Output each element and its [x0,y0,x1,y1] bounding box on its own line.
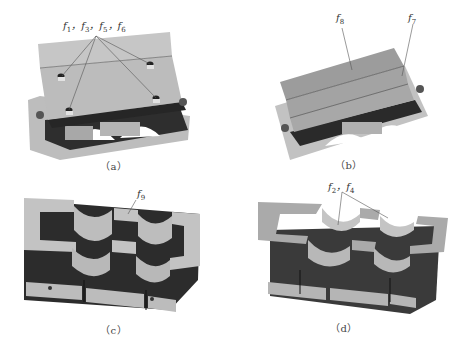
face-label-a: f1，f3，f5，f6 [63,17,126,34]
panel-d: f2，f4 （d） [230,170,461,338]
face-label-f7: f7 [408,12,416,26]
cad-render-d [230,170,461,338]
panel-a: f1，f3，f5，f6 （a） [0,0,230,170]
face-label-d: f2，f4 [328,178,354,195]
cad-render-b [230,0,461,170]
face-label-f8: f8 [336,12,344,26]
caption-c: （c） [100,322,127,337]
caption-d: （d） [330,320,358,335]
face-label-f9: f9 [137,188,145,202]
panel-c: f9 （c） [0,170,230,338]
cad-render-c [0,170,230,338]
panel-b: f8 f7 （b） [230,0,461,170]
